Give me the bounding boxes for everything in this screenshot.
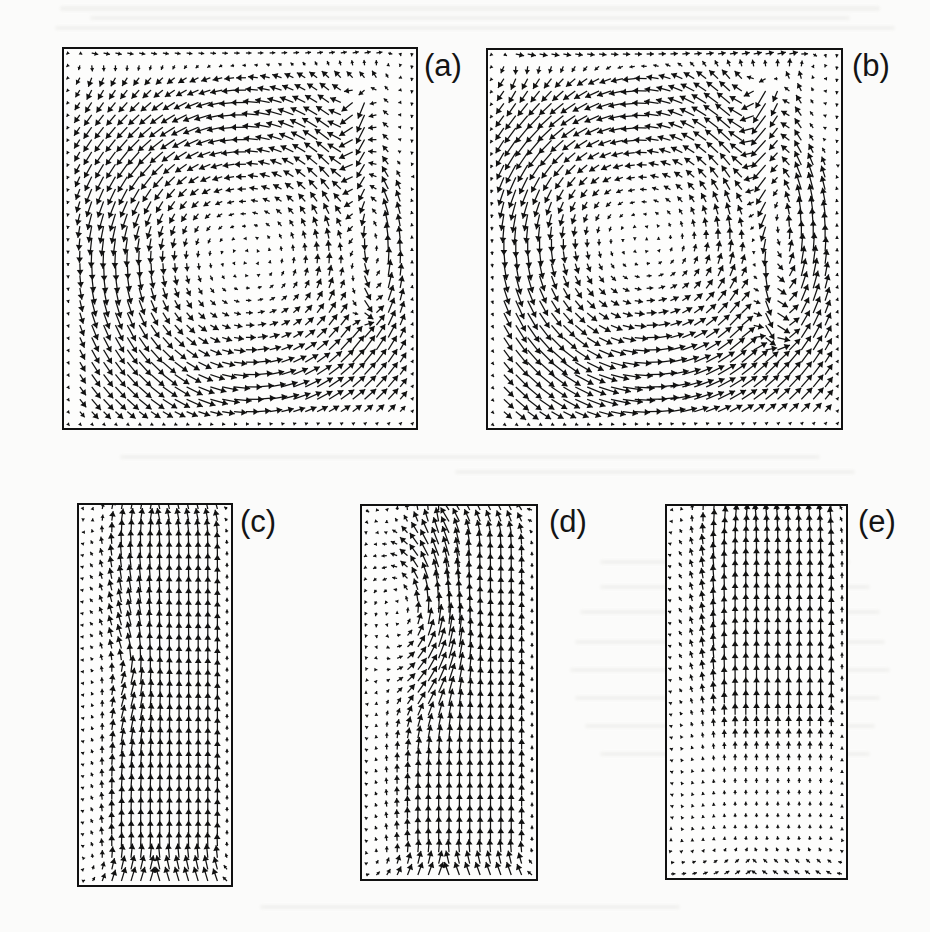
panel-c-vector-field bbox=[77, 503, 233, 887]
panel-e bbox=[665, 504, 848, 880]
figure-panels-container: (a) (b) (c) (d) (e) bbox=[0, 0, 930, 932]
panel-a-label: (a) bbox=[424, 50, 462, 81]
panel-d bbox=[360, 504, 538, 881]
panel-b-label: (b) bbox=[852, 50, 890, 81]
panel-d-vector-field bbox=[360, 504, 538, 881]
panel-c-label: (c) bbox=[240, 506, 276, 537]
panel-a bbox=[62, 47, 418, 430]
panel-d-label: (d) bbox=[549, 506, 587, 537]
panel-e-label: (e) bbox=[858, 506, 896, 537]
panel-b bbox=[486, 48, 843, 430]
panel-a-vector-field bbox=[62, 47, 418, 430]
panel-b-vector-field bbox=[486, 48, 843, 430]
panel-e-vector-field bbox=[665, 504, 848, 880]
panel-c bbox=[77, 503, 233, 887]
